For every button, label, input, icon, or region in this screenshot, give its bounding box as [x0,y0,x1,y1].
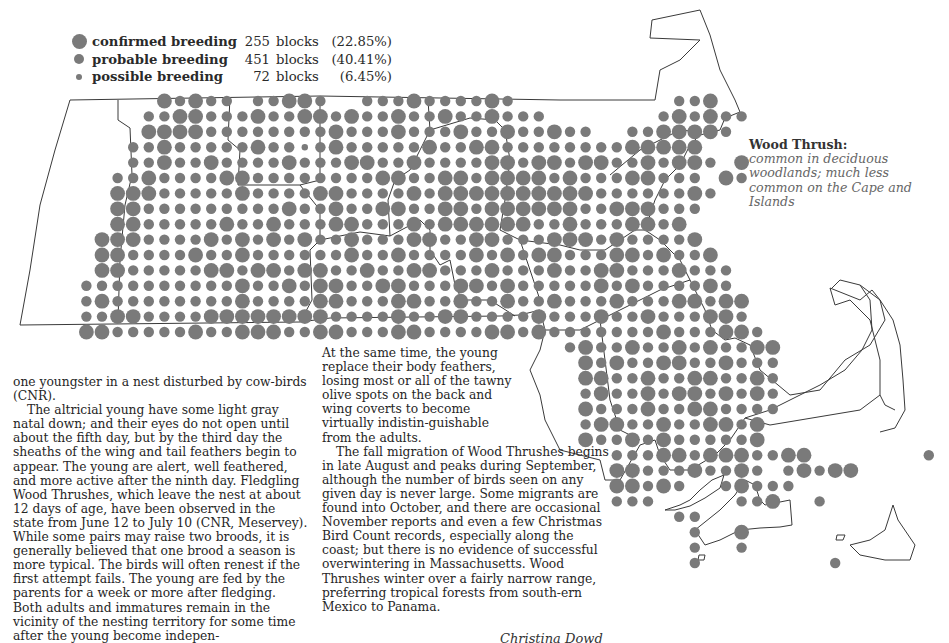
breeding-dot [362,188,372,198]
breeding-dot [690,342,700,352]
breeding-dot [643,342,653,352]
breeding-dot [471,327,481,337]
breeding-dot [175,265,185,275]
breeding-dot [830,558,840,568]
breeding-dot [565,296,575,306]
breeding-dot [422,140,437,155]
breeding-dot [531,186,546,201]
breeding-dot [391,248,406,263]
breeding-dot [625,140,640,155]
breeding-dot [284,219,294,229]
legend-label: confirmed breeding [92,33,232,51]
breeding-dot [471,296,481,306]
breeding-dot [253,127,263,137]
breeding-dot [315,234,325,244]
breeding-dot [612,311,622,321]
breeding-dot [547,186,562,201]
breeding-dot [674,327,684,337]
breeding-dot [141,186,156,201]
breeding-dot [344,248,359,263]
breeding-dot [609,232,624,247]
breeding-dot [625,217,640,232]
breeding-dot [625,171,640,186]
breeding-dot [237,127,247,137]
breeding-dot [658,388,668,398]
breeding-dot [485,140,500,155]
breeding-dot [485,201,500,216]
breeding-dot [549,281,559,291]
breeding-dot [128,250,138,260]
breeding-dot [235,294,250,309]
breeding-dot [438,186,453,201]
breeding-dot [235,309,250,324]
breeding-dot [190,296,200,306]
breeding-dot [580,142,590,152]
breeding-dot [690,358,700,368]
breeding-dot [378,157,388,167]
breeding-dot [175,96,185,106]
breeding-dot [362,250,372,260]
legend-row-confirmed: confirmed breeding 255 blocks (22.85%) [66,33,392,51]
breeding-dot [393,265,403,275]
breeding-dot [765,494,780,509]
breeding-dot [578,155,593,170]
breeding-dot [768,388,778,398]
breeding-dot [344,109,359,124]
breeding-dot [609,294,624,309]
breeding-dot [313,186,328,201]
breeding-dot [752,404,762,414]
breeding-dot [300,188,310,198]
breeding-dot [331,265,341,275]
breeding-dot [393,157,403,167]
breeding-dot [518,296,528,306]
breeding-dot [81,296,91,306]
breeding-dot [126,232,141,247]
breeding-dot [362,142,372,152]
breeding-dot [627,296,637,306]
breeding-dot [471,127,481,137]
breeding-dot [612,281,622,291]
breeding-dot [658,157,668,167]
breeding-dot [268,188,278,198]
breeding-dot [549,142,559,152]
breeding-dot [765,340,780,355]
breeding-dot [658,342,668,352]
breeding-dot [471,265,481,275]
breeding-dot [157,155,172,170]
breeding-dot [219,171,234,186]
breeding-dot [565,127,575,137]
breeding-dot [235,325,250,340]
breeding-dot [297,94,312,109]
breeding-dot [531,248,546,263]
breeding-dot [549,327,559,337]
breeding-dot [409,250,419,260]
breeding-dot [736,342,746,352]
breeding-dot [424,327,434,337]
breeding-dot [690,96,700,106]
breeding-dot [471,204,481,214]
breeding-dot [222,157,232,167]
breeding-dot [687,155,702,170]
breeding-dot [438,171,453,186]
breeding-dot [81,281,91,291]
breeding-dot [222,250,232,260]
breeding-dot [627,127,637,137]
breeding-dot [159,204,169,214]
legend-row-probable: probable breeding 451 blocks (40.41%) [66,51,392,69]
breeding-dot [690,204,700,214]
breeding-dot [393,234,403,244]
breeding-dot [251,140,266,155]
breeding-dot [112,173,122,183]
breeding-dot [190,281,200,291]
breeding-dot [159,311,169,321]
breeding-dot [313,278,328,293]
breeding-dot [563,186,578,201]
breeding-dot [268,296,278,306]
breeding-dot [658,204,668,214]
breeding-dot [110,232,125,247]
breeding-dot [315,157,325,167]
breeding-dot [658,111,668,121]
breeding-dot [378,250,388,260]
breeding-dot [284,127,294,137]
legend-count: 72 [240,68,270,86]
